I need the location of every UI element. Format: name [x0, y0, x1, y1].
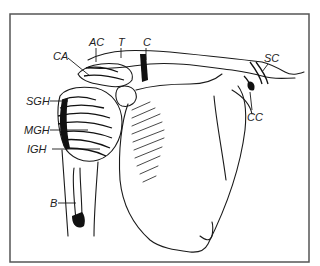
label-igh: IGH	[27, 144, 47, 155]
label-sc: SC	[264, 53, 279, 64]
humerus-shaft	[62, 150, 68, 236]
label-b: B	[50, 198, 57, 209]
label-ca: CA	[53, 51, 68, 62]
coracoid-process	[116, 86, 136, 106]
biceps-tendon	[73, 168, 76, 220]
label-cc: CC	[247, 112, 263, 123]
scapula	[119, 86, 245, 252]
label-ac: AC	[89, 37, 104, 48]
label-c: C	[143, 37, 151, 48]
biceps-tendon-end	[72, 212, 85, 228]
label-sgh: SGH	[26, 96, 50, 107]
label-mgh: MGH	[24, 125, 50, 136]
label-t: T	[118, 37, 125, 48]
leader-cc	[250, 92, 252, 110]
leader-sc	[262, 64, 268, 72]
